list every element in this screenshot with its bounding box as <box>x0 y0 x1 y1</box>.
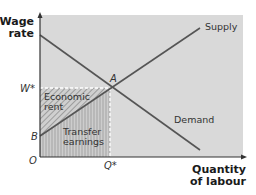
x-axis-title: Quantity of labour <box>190 164 246 188</box>
demand-label: Demand <box>174 114 214 125</box>
economic-rent-label: Economic rent <box>44 92 90 112</box>
equilibrium-point-label: A <box>110 73 117 84</box>
y-axis-title: Wage rate <box>0 16 34 40</box>
x-axis-title-line2: of labour <box>190 176 246 188</box>
quantity-equilibrium-label: Q* <box>104 160 117 171</box>
y-axis-title-line2: rate <box>0 28 34 40</box>
economic-rent-label-line2: rent <box>44 102 90 112</box>
wage-equilibrium-label: W* <box>20 83 35 94</box>
transfer-earnings-label: Transfer earnings <box>63 127 104 147</box>
supply-label: Supply <box>205 21 237 32</box>
supply-intercept-label: B <box>31 131 38 142</box>
origin-label: O <box>29 155 37 166</box>
transfer-earnings-label-line2: earnings <box>63 137 104 147</box>
x-axis-arrow-icon <box>241 155 247 160</box>
